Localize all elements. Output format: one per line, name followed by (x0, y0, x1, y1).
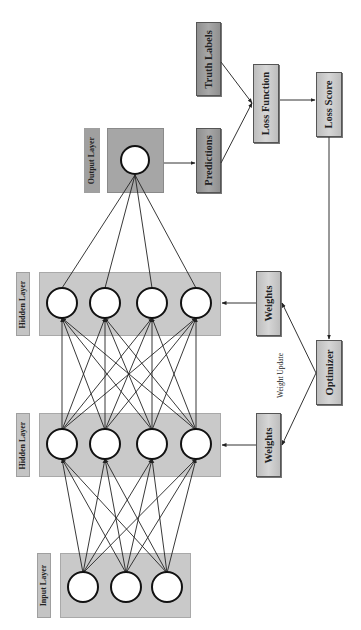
input-neuron (111, 572, 141, 602)
hidden1-neuron (47, 429, 77, 459)
input-neuron (152, 572, 182, 602)
hidden2-neuron (90, 288, 120, 318)
connections-layer (0, 0, 361, 630)
diagram-canvas: Output Layer Hidden Layer Hidden Layer I… (0, 0, 361, 630)
hidden2-neuron (181, 288, 211, 318)
hidden1-neuron (90, 429, 120, 459)
network-edges (62, 175, 196, 573)
input-neuron (68, 572, 98, 602)
flow-edges (164, 62, 329, 445)
hidden2-neuron (137, 288, 167, 318)
hidden1-neuron (137, 429, 167, 459)
output-neuron (121, 146, 149, 174)
hidden1-neuron (181, 429, 211, 459)
hidden2-neuron (47, 288, 77, 318)
